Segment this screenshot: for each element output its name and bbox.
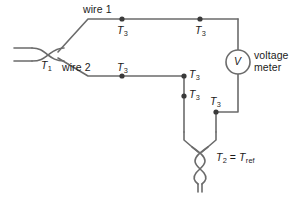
label-wire2: wire 2 <box>62 62 91 74</box>
node-t3-wire2-lower <box>181 93 186 98</box>
label-t2-reference: T2 = Tref <box>216 152 254 164</box>
figure-canvas: T1 wire 1 wire 2 T3 T3 T3 T3 T3 T3 V vol… <box>0 0 304 206</box>
node-t3-wire2-corner <box>181 73 186 78</box>
t2-twist-strand-b <box>195 147 208 184</box>
node-t3-wire1-left <box>119 16 124 21</box>
label-wire1: wire 1 <box>83 4 112 16</box>
node-t3-meter-return <box>213 109 218 114</box>
label-t3-wire1-left: T3 <box>117 25 128 37</box>
label-t3-wire2-left: T3 <box>117 62 128 74</box>
t2-twist-strand-a <box>192 147 205 184</box>
label-t1: T1 <box>41 60 52 72</box>
label-t3-wire2-lower: T3 <box>189 89 200 101</box>
voltage-meter-symbol: V <box>234 56 241 68</box>
voltage-meter-label: voltage meter <box>254 49 302 74</box>
wire1-path <box>58 19 238 52</box>
label-t3-wire1-right: T3 <box>195 25 206 37</box>
node-t3-wire1-right <box>197 16 202 21</box>
label-t3-wire2-corner: T3 <box>189 69 200 81</box>
label-t3-meter-return: T3 <box>210 96 221 108</box>
thermocouple-circuit-diagram <box>0 0 304 206</box>
